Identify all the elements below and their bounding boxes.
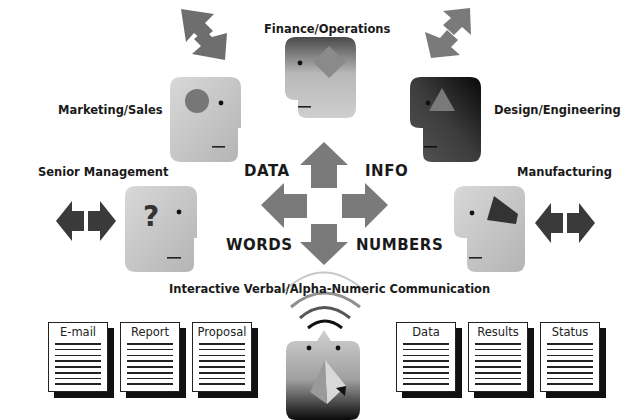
document-title: Proposal <box>193 325 251 339</box>
document-lines <box>475 343 521 389</box>
numbers-label: NUMBERS <box>356 236 443 254</box>
double-arrow-diagonal-right-icon <box>425 8 471 58</box>
design-head-icon <box>410 77 481 162</box>
manufacturing-head-icon <box>454 186 525 272</box>
words-label: WORDS <box>226 236 293 254</box>
document-status: Status <box>540 322 600 392</box>
double-arrow-right-icon <box>535 203 595 243</box>
caption: Interactive Verbal/Alpha-Numeric Communi… <box>169 282 490 296</box>
marketing-label: Marketing/Sales <box>58 103 163 117</box>
document-data: Data <box>396 322 456 392</box>
document-lines <box>127 343 173 389</box>
marketing-head-icon <box>170 77 241 162</box>
design-label: Design/Engineering <box>494 103 621 117</box>
document-lines <box>199 343 245 389</box>
document-title: E-mail <box>49 325 107 339</box>
communicator-head-icon <box>286 330 360 420</box>
document-title: Status <box>541 325 599 339</box>
document-proposal: Proposal <box>192 322 252 392</box>
arrow-up-icon <box>300 142 348 188</box>
document-title: Results <box>469 325 527 339</box>
document-results: Results <box>468 322 528 392</box>
arrow-down-icon <box>300 224 348 265</box>
manufacturing-label: Manufacturing <box>517 165 612 179</box>
senior-management-label: Senior Management <box>38 165 168 179</box>
document-lines <box>547 343 593 389</box>
finance-head-icon <box>285 37 356 118</box>
arrow-right-icon <box>342 183 388 228</box>
finance-label: Finance/Operations <box>264 22 390 36</box>
document-report: Report <box>120 322 180 392</box>
senior-management-head-icon: ? <box>125 186 197 272</box>
document-lines <box>55 343 101 389</box>
data-label: DATA <box>244 162 290 180</box>
document-title: Data <box>397 325 455 339</box>
broadcast-waves-icon <box>283 272 368 328</box>
info-label: INFO <box>365 162 408 180</box>
arrow-left-icon <box>261 183 307 228</box>
document-email: E-mail <box>48 322 108 392</box>
svg-text:?: ? <box>143 200 159 233</box>
double-arrow-left-icon <box>56 201 116 241</box>
double-arrow-diagonal-left-icon <box>181 9 227 60</box>
document-lines <box>403 343 449 389</box>
document-title: Report <box>121 325 179 339</box>
